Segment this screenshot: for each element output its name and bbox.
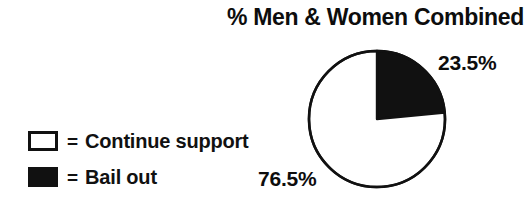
chart-legend: = Continue support = Bail out (28, 126, 249, 198)
legend-item-bail-out: = Bail out (28, 162, 249, 192)
hollow-square-icon (28, 131, 58, 151)
legend-item-continue-support: = Continue support (28, 126, 249, 156)
pie-chart-svg (306, 48, 448, 190)
legend-label-continue-support: Continue support (85, 131, 248, 151)
pie-chart (306, 48, 448, 190)
legend-equals-sign: = (67, 168, 78, 187)
filled-square-icon (28, 167, 58, 187)
legend-label-bail-out: Bail out (85, 167, 157, 187)
legend-equals-sign: = (67, 132, 78, 151)
chart-title: % Men & Women Combined (0, 4, 524, 31)
pie-value-label-continue-support: 76.5% (258, 168, 317, 189)
pie-value-label-bail-out: 23.5% (438, 52, 497, 73)
